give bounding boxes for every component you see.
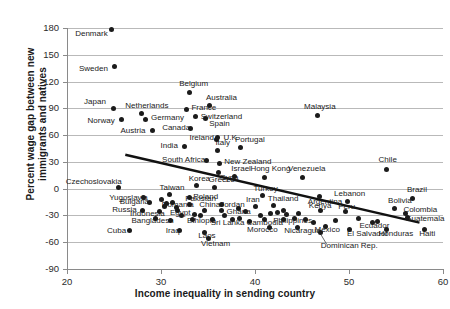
point-label: Mexico [315, 226, 340, 234]
point-label: Brazil [407, 186, 427, 194]
point-label: Italy [215, 139, 230, 147]
point-label: Taiwan [159, 184, 184, 192]
x-tickmark [67, 269, 68, 274]
point-label: Venezuela [288, 165, 325, 173]
point-label: Iran [246, 196, 260, 204]
data-point [392, 206, 397, 211]
point-label: Norway [88, 117, 115, 125]
data-point [150, 128, 155, 133]
point-label: Iraq [166, 227, 180, 235]
y-tick-label: 120 [25, 76, 59, 87]
point-label: Australia [206, 94, 237, 102]
gridline [67, 215, 443, 216]
point-label: Honduras [379, 230, 414, 238]
point-label: Czechoslovakia [66, 178, 122, 186]
x-tick-label: 40 [240, 276, 270, 287]
point-label: Lebanon [334, 190, 365, 198]
point-label: Thailand [268, 195, 299, 203]
data-point [109, 27, 114, 32]
point-label: Korea [189, 175, 210, 183]
gridline [67, 82, 443, 83]
data-point [167, 192, 172, 197]
x-tick-label: 30 [146, 276, 176, 287]
point-label: Turkey [254, 185, 278, 193]
point-label: Guatemala [405, 215, 444, 223]
point-label: Greece [209, 176, 235, 184]
data-point [139, 111, 144, 116]
point-label: France [191, 104, 216, 112]
x-tick-label: 50 [334, 276, 364, 287]
data-point-unlabeled [281, 208, 286, 213]
point-label: Hong Kong [250, 165, 290, 173]
data-point [193, 114, 198, 119]
y-tick-label: 150 [25, 49, 59, 60]
point-label: Canada [162, 124, 190, 132]
point-label: Israel [231, 165, 251, 173]
y-tick-label: 60 [25, 129, 59, 140]
data-point-unlabeled [356, 216, 361, 221]
y-tick-label: 180 [25, 22, 59, 33]
data-point [119, 117, 124, 122]
point-label: India [161, 142, 178, 150]
gridline [67, 108, 443, 109]
data-point [300, 175, 305, 180]
point-label: Cuba [107, 227, 126, 235]
data-point [238, 145, 243, 150]
point-label: Belgium [179, 80, 208, 88]
point-label: Malaysia [304, 103, 336, 111]
point-label: South Africa [162, 156, 205, 164]
data-point [182, 144, 187, 149]
point-label: Japan [84, 98, 106, 106]
point-label: Dominican Rep. [321, 242, 378, 250]
gridline [67, 55, 443, 56]
data-point [260, 193, 265, 198]
point-label: Portugal [235, 136, 265, 144]
data-point [215, 148, 220, 153]
point-label: Netherlands [125, 102, 168, 110]
data-point [143, 117, 148, 122]
y-tick-label: -90 [25, 263, 59, 274]
data-point [271, 203, 276, 208]
x-axis-title: Income inequality in sending country [0, 288, 450, 299]
data-point [127, 228, 132, 233]
scatter-chart: Percent wage gap between new immigrants … [0, 0, 450, 309]
point-label: Ireland [189, 134, 213, 142]
data-point [384, 167, 389, 172]
data-point [187, 90, 192, 95]
x-tickmark [161, 269, 162, 274]
data-point [253, 204, 258, 209]
x-tick-label: 20 [52, 276, 82, 287]
data-point-unlabeled [268, 211, 273, 216]
data-point [111, 106, 116, 111]
point-label: Ghana [227, 208, 251, 216]
y-tick-label: 0 [25, 183, 59, 194]
point-label: Peru [338, 203, 355, 211]
gridline [67, 242, 443, 243]
point-label: Germany [151, 114, 184, 122]
x-tickmark [255, 269, 256, 274]
point-label: Colombia [403, 206, 437, 214]
point-label: Morocco [247, 226, 278, 234]
y-tick-label: 90 [25, 102, 59, 113]
x-tickmark [349, 269, 350, 274]
y-tick-label: -60 [25, 236, 59, 247]
point-label: Kenya [309, 202, 332, 210]
data-point [315, 113, 320, 118]
point-label: Haiti [419, 230, 435, 238]
point-label: China [199, 201, 220, 209]
y-tick-label: -30 [25, 209, 59, 220]
point-label: Vietnam [201, 240, 230, 248]
gridline [67, 28, 443, 29]
data-point-unlabeled [333, 218, 338, 223]
x-tick-label: 60 [428, 276, 450, 287]
y-axis-line [67, 28, 68, 269]
point-label: Sweden [79, 65, 108, 73]
data-point [184, 107, 189, 112]
y-tick-label: 30 [25, 156, 59, 167]
x-tickmark [443, 269, 444, 274]
data-point [217, 161, 222, 166]
point-label: Bangladesh [131, 217, 173, 225]
point-label: Denmark [75, 30, 107, 38]
point-label: Sri Lanka [211, 219, 245, 227]
data-point [262, 175, 267, 180]
